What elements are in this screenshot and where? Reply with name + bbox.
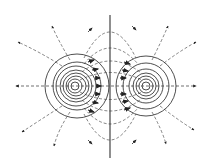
field-diagram [0, 0, 212, 167]
